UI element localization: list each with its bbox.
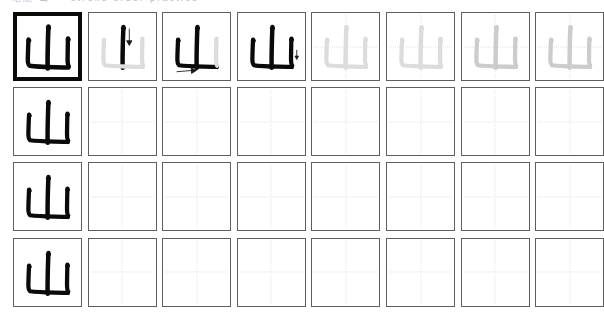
guide-line-horizontal xyxy=(314,272,377,273)
stroke-direction-arrow-tick xyxy=(238,13,305,80)
stroke-1 xyxy=(48,177,49,218)
practice-cell-r3-c5[interactable] xyxy=(311,162,380,231)
character-glyph xyxy=(536,13,603,80)
stroke-1 xyxy=(421,27,422,68)
stroke-3 xyxy=(67,264,68,291)
stroke-1 xyxy=(48,102,49,143)
practice-cell-r1-c3 xyxy=(162,12,231,81)
practice-cell-r2-c7[interactable] xyxy=(461,87,530,156)
guide-line-horizontal xyxy=(314,121,377,122)
stroke-3 xyxy=(67,189,68,216)
practice-cell-r1-c1 xyxy=(13,12,82,81)
character-glyph xyxy=(14,163,81,230)
stroke-direction-arrow-down xyxy=(89,13,156,80)
practice-cell-r4-c8[interactable] xyxy=(535,238,604,307)
guide-line-horizontal xyxy=(538,196,601,197)
practice-cell-r3-c8[interactable] xyxy=(535,162,604,231)
character-glyph xyxy=(462,13,529,80)
guide-line-horizontal xyxy=(91,196,154,197)
guide-line-horizontal xyxy=(464,121,527,122)
stroke-1 xyxy=(495,27,496,68)
stroke-1 xyxy=(48,253,49,294)
practice-cell-r4-c2[interactable] xyxy=(88,238,157,307)
stroke-1 xyxy=(48,27,49,69)
practice-cell-r3-c3[interactable] xyxy=(162,162,231,231)
guide-line-horizontal xyxy=(464,196,527,197)
practice-cell-r3-c1 xyxy=(13,162,82,231)
practice-cell-r4-c7[interactable] xyxy=(461,238,530,307)
stroke-1 xyxy=(346,27,347,68)
guide-line-horizontal xyxy=(91,272,154,273)
practice-cell-r3-c2[interactable] xyxy=(88,162,157,231)
practice-cell-r1-c5 xyxy=(311,12,380,81)
practice-cell-r1-c4 xyxy=(237,12,306,81)
practice-cell-r4-c4[interactable] xyxy=(237,238,306,307)
stroke-3 xyxy=(365,39,366,66)
practice-cell-r4-c1 xyxy=(13,238,82,307)
worksheet-header-text: 笔順 山 ・ stroke order practice xyxy=(12,0,199,4)
practice-cell-r2-c3[interactable] xyxy=(162,87,231,156)
header-strip: 笔順 山 ・ stroke order practice xyxy=(0,0,601,9)
guide-line-horizontal xyxy=(240,196,303,197)
practice-cell-r2-c4[interactable] xyxy=(237,87,306,156)
practice-cell-r4-c5[interactable] xyxy=(311,238,380,307)
guide-line-horizontal xyxy=(165,121,228,122)
practice-cell-r1-c2 xyxy=(88,12,157,81)
guide-line-horizontal xyxy=(389,121,452,122)
practice-cell-r4-c3[interactable] xyxy=(162,238,231,307)
character-glyph xyxy=(14,88,81,155)
stroke-3 xyxy=(589,39,590,66)
guide-line-horizontal xyxy=(165,196,228,197)
guide-line-horizontal xyxy=(240,121,303,122)
character-glyph xyxy=(14,239,81,306)
practice-cell-r1-c7 xyxy=(461,12,530,81)
practice-cell-r2-c2[interactable] xyxy=(88,87,157,156)
guide-line-horizontal xyxy=(91,121,154,122)
stroke-3 xyxy=(67,114,68,141)
stroke-3 xyxy=(440,39,441,66)
guide-line-horizontal xyxy=(240,272,303,273)
practice-cell-r2-c5[interactable] xyxy=(311,87,380,156)
practice-cell-r2-c8[interactable] xyxy=(535,87,604,156)
practice-cell-r1-c8 xyxy=(535,12,604,81)
character-glyph xyxy=(387,13,454,80)
guide-line-horizontal xyxy=(389,196,452,197)
guide-line-horizontal xyxy=(389,272,452,273)
character-glyph xyxy=(312,13,379,80)
stroke-1 xyxy=(570,27,571,68)
guide-line-horizontal xyxy=(464,272,527,273)
character-glyph xyxy=(13,12,82,81)
stroke-3 xyxy=(515,39,516,66)
practice-cell-r2-c1 xyxy=(13,87,82,156)
guide-line-horizontal xyxy=(314,196,377,197)
practice-cell-r2-c6[interactable] xyxy=(386,87,455,156)
guide-line-horizontal xyxy=(538,121,601,122)
guide-line-horizontal xyxy=(538,272,601,273)
practice-cell-r3-c6[interactable] xyxy=(386,162,455,231)
practice-cell-r3-c7[interactable] xyxy=(461,162,530,231)
practice-cell-r1-c6 xyxy=(386,12,455,81)
practice-cell-r3-c4[interactable] xyxy=(237,162,306,231)
stroke-3 xyxy=(68,39,69,67)
guide-line-horizontal xyxy=(165,272,228,273)
stroke-direction-arrow-right xyxy=(163,13,230,80)
practice-cell-r4-c6[interactable] xyxy=(386,238,455,307)
